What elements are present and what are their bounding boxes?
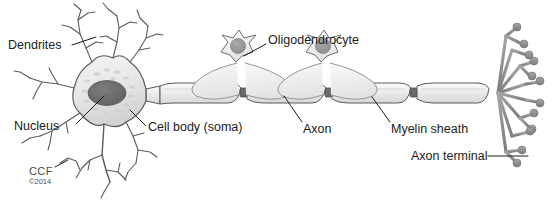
leader-credit — [55, 160, 68, 167]
label-dendrites: Dendrites — [8, 38, 62, 52]
credit-mark: CCF — [29, 165, 53, 177]
label-axon-terminal: Axon terminal — [411, 149, 487, 163]
label-cell-body: Cell body (soma) — [148, 120, 242, 134]
label-nucleus: Nucleus — [14, 119, 59, 133]
label-myelin-sheath: Myelin sheath — [391, 122, 468, 136]
myelin-segment — [417, 83, 489, 103]
neuron-diagram: Dendrites Nucleus Cell body (soma) Oligo… — [0, 0, 555, 203]
neuron-illustration: Dendrites Nucleus Cell body (soma) Oligo… — [0, 0, 555, 203]
axon-terminal-boutons — [513, 23, 544, 167]
credit-copyright: ©2014 — [29, 177, 51, 186]
label-axon: Axon — [303, 122, 332, 136]
oligodendrocyte-nucleus — [231, 39, 246, 54]
soma-nucleus — [88, 81, 126, 106]
axon-terminal-group — [489, 28, 538, 162]
label-oligodendrocyte: Oligodendrocyte — [268, 33, 359, 47]
node-of-ranvier — [410, 88, 417, 97]
